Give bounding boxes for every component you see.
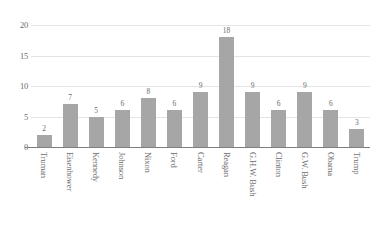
bar-clinton[interactable] [271,110,286,147]
bar-item: 9 [292,25,318,147]
bar-value-label: 6 [109,100,135,108]
bar-item: 6 [266,25,292,147]
bar-gw-bush[interactable] [297,92,312,147]
bar-item: 3 [344,25,370,147]
x-tick-label-carter: Carter [196,152,205,173]
bar-item: 2 [31,25,57,147]
x-tick-label-gw-bush: G.W. Bush [301,152,310,188]
x-label-item: Nixon [135,150,161,222]
bar-item: 5 [83,25,109,147]
x-axis-line [25,147,370,148]
bar-chart: 20 15 10 5 0 2 7 5 6 8 [0,0,383,225]
bar-item: 9 [187,25,213,147]
x-tick-label-reagan: Reagan [222,152,231,177]
y-tick-label-20: 20 [4,21,28,30]
bar-obama[interactable] [323,110,338,147]
bar-truman[interactable] [37,135,52,147]
x-tick-label-obama: Obama [327,152,336,176]
bar-series: 2 7 5 6 8 6 9 18 [31,25,370,147]
x-label-item: Carter [187,150,213,222]
bar-value-label: 6 [318,100,344,108]
y-tick-label-15: 15 [4,52,28,61]
bar-item: 18 [214,25,240,147]
x-label-item: Johnson [109,150,135,222]
bar-nixon[interactable] [141,98,156,147]
x-label-item: Trump [344,150,370,222]
x-label-item: Clinton [266,150,292,222]
x-label-item: Reagan [214,150,240,222]
x-axis-labels: Truman Eisenhower Kennedy Johnson Nixon … [31,150,370,222]
bar-value-label: 7 [57,94,83,102]
x-tick-label-trump: Trump [353,152,362,174]
bar-item: 9 [240,25,266,147]
y-tick-label-10: 10 [4,82,28,91]
bar-value-label: 8 [135,88,161,96]
y-axis: 20 15 10 5 0 [0,25,28,147]
bar-value-label: 3 [344,119,370,127]
bar-value-label: 9 [240,82,266,90]
x-tick-label-clinton: Clinton [274,152,283,177]
bar-johnson[interactable] [115,110,130,147]
bar-ford[interactable] [167,110,182,147]
bar-kennedy[interactable] [89,117,104,148]
x-tick-label-eisenhower: Eisenhower [66,152,75,191]
x-label-item: G.H.W. Bush [240,150,266,222]
bar-value-label: 6 [266,100,292,108]
x-label-item: Eisenhower [57,150,83,222]
bar-value-label: 2 [31,125,57,133]
x-tick-label-kennedy: Kennedy [92,152,101,182]
bar-item: 6 [161,25,187,147]
bar-eisenhower[interactable] [63,104,78,147]
bar-value-label: 5 [83,107,109,115]
bar-item: 6 [318,25,344,147]
x-label-item: G.W. Bush [292,150,318,222]
bar-item: 8 [135,25,161,147]
bar-value-label: 9 [292,82,318,90]
x-label-item: Kennedy [83,150,109,222]
bar-ghw-bush[interactable] [245,92,260,147]
bar-value-label: 9 [187,82,213,90]
bar-value-label: 18 [214,27,240,35]
bar-value-label: 6 [161,100,187,108]
bar-item: 6 [109,25,135,147]
y-tick-label-5: 5 [4,113,28,122]
x-label-item: Truman [31,150,57,222]
x-label-item: Obama [318,150,344,222]
x-label-item: Ford [161,150,187,222]
bar-reagan[interactable] [219,37,234,147]
x-tick-label-ghw-bush: G.H.W. Bush [248,152,257,196]
bar-item: 7 [57,25,83,147]
x-tick-label-ford: Ford [170,152,179,168]
x-tick-label-truman: Truman [40,152,49,178]
bar-trump[interactable] [349,129,364,147]
x-tick-label-johnson: Johnson [118,152,127,179]
x-tick-label-nixon: Nixon [144,152,153,173]
bar-carter[interactable] [193,92,208,147]
